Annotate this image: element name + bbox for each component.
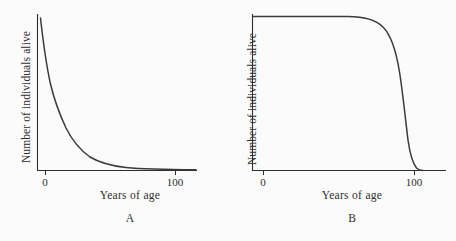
panel-b-plot bbox=[228, 0, 456, 241]
panel-b-xtick-label-100: 100 bbox=[399, 176, 429, 188]
panel-b-xtick-label-0: 0 bbox=[248, 176, 278, 188]
panel-a-letter: A bbox=[0, 212, 244, 224]
panel-a: Number of individuals alive 0 100 Years … bbox=[0, 0, 228, 241]
panel-b: Number of individuals alive 0 100 Years … bbox=[228, 0, 456, 241]
panel-a-curve bbox=[41, 18, 197, 170]
panel-a-xtick-label-0: 0 bbox=[30, 176, 60, 188]
panel-b-xlabel: Years of age bbox=[228, 189, 456, 201]
panel-b-ylabel: Number of individuals alive bbox=[246, 14, 262, 184]
survivorship-curves-figure: Number of individuals alive 0 100 Years … bbox=[0, 0, 456, 241]
panel-b-axes bbox=[253, 14, 447, 171]
panel-a-axes bbox=[38, 14, 198, 171]
panel-a-xlabel: Years of age bbox=[0, 189, 244, 201]
panel-a-xtick-label-100: 100 bbox=[160, 176, 190, 188]
panel-b-curve bbox=[253, 17, 423, 171]
panel-b-letter: B bbox=[228, 212, 456, 224]
panel-a-ylabel: Number of individuals alive bbox=[20, 12, 36, 182]
